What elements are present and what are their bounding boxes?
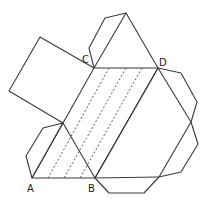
bottom-flap bbox=[95, 177, 159, 193]
bottom-right-face bbox=[95, 177, 159, 178]
right-diagonal bbox=[95, 68, 158, 178]
top-flap bbox=[89, 13, 126, 68]
left-flap bbox=[26, 123, 63, 178]
right-face-edge bbox=[159, 122, 191, 177]
fold-line-3 bbox=[80, 68, 142, 178]
label-a: A bbox=[27, 183, 34, 194]
right-flap bbox=[158, 68, 197, 122]
label-d: D bbox=[159, 57, 167, 68]
right-lower-flap bbox=[159, 122, 198, 177]
fold-line-1 bbox=[48, 68, 109, 178]
label-b: B bbox=[88, 183, 95, 194]
prism-net-diagram: C D A B bbox=[0, 0, 208, 207]
fold-line-2 bbox=[64, 68, 126, 178]
label-c: C bbox=[82, 54, 89, 65]
central-face bbox=[32, 68, 158, 178]
square-flap bbox=[9, 37, 94, 123]
right-triangle-upper bbox=[158, 68, 191, 122]
